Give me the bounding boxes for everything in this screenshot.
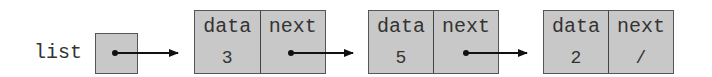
node2-next-pointer-arrow (463, 50, 527, 56)
pointer-arrows (0, 0, 712, 77)
head-pointer-arrow (112, 50, 178, 56)
node1-next-pointer-arrow (288, 50, 353, 56)
